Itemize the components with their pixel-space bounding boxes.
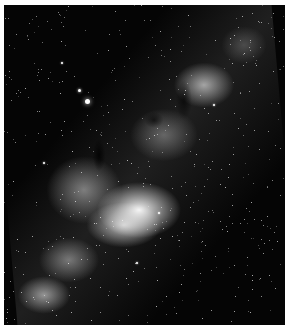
faint-star xyxy=(143,183,144,184)
faint-star xyxy=(90,278,91,279)
faint-star xyxy=(115,80,116,81)
faint-star xyxy=(27,35,28,36)
faint-star xyxy=(208,211,209,212)
faint-star xyxy=(119,320,120,321)
faint-star xyxy=(74,279,75,280)
faint-star xyxy=(48,78,49,79)
faint-star xyxy=(245,274,246,275)
faint-star xyxy=(126,278,127,279)
faint-star xyxy=(190,26,191,27)
faint-star xyxy=(81,172,82,173)
faint-star xyxy=(148,57,149,58)
faint-star xyxy=(117,295,118,296)
faint-star xyxy=(244,232,245,233)
faint-star xyxy=(66,10,67,11)
bright-star xyxy=(136,262,138,264)
faint-star xyxy=(10,281,11,282)
faint-star xyxy=(6,84,7,85)
faint-star xyxy=(189,37,190,38)
faint-star xyxy=(207,140,208,141)
faint-star xyxy=(243,65,244,66)
faint-star xyxy=(272,36,273,37)
faint-star xyxy=(170,99,171,100)
faint-star xyxy=(124,99,125,100)
faint-star xyxy=(155,230,156,231)
faint-star xyxy=(109,291,110,292)
faint-star xyxy=(249,47,250,48)
faint-star xyxy=(88,92,89,93)
faint-star xyxy=(25,135,26,136)
faint-star xyxy=(259,149,260,150)
faint-star xyxy=(14,319,15,320)
faint-star xyxy=(202,228,203,229)
faint-star xyxy=(271,28,272,29)
faint-star xyxy=(100,217,101,218)
faint-star xyxy=(149,166,150,167)
faint-star xyxy=(224,68,225,69)
faint-star xyxy=(186,195,187,196)
faint-star xyxy=(271,281,272,282)
faint-star xyxy=(43,248,44,249)
faint-star xyxy=(162,222,163,223)
faint-star xyxy=(147,322,148,323)
faint-star xyxy=(154,135,155,136)
faint-star xyxy=(101,135,102,136)
faint-star xyxy=(246,208,247,209)
faint-star xyxy=(97,53,98,54)
faint-star xyxy=(235,296,236,297)
faint-star xyxy=(68,263,69,264)
faint-star xyxy=(18,251,19,252)
faint-star xyxy=(128,284,129,285)
faint-star xyxy=(149,138,150,139)
faint-star xyxy=(162,152,163,153)
faint-star xyxy=(233,82,234,83)
faint-star xyxy=(70,216,71,217)
faint-star xyxy=(13,139,14,140)
faint-star xyxy=(165,130,166,131)
faint-star xyxy=(213,212,214,213)
faint-star xyxy=(127,160,128,161)
faint-star xyxy=(97,175,98,176)
faint-star xyxy=(63,238,64,239)
faint-star xyxy=(181,186,182,187)
faint-star xyxy=(163,228,164,229)
faint-star xyxy=(280,195,281,196)
faint-star xyxy=(7,322,8,323)
faint-star xyxy=(161,207,162,208)
faint-star xyxy=(279,41,280,42)
faint-star xyxy=(15,267,16,268)
faint-star xyxy=(62,135,63,136)
faint-star xyxy=(58,12,59,13)
faint-star xyxy=(194,164,195,165)
faint-star xyxy=(280,264,281,265)
faint-star xyxy=(240,223,241,224)
faint-star xyxy=(228,177,229,178)
faint-star xyxy=(103,115,104,116)
faint-star xyxy=(181,284,182,285)
faint-star xyxy=(258,245,259,246)
faint-star xyxy=(61,130,62,131)
faint-star xyxy=(247,265,248,266)
faint-star xyxy=(192,263,193,264)
faint-star xyxy=(5,75,6,76)
faint-star xyxy=(184,94,185,95)
faint-star xyxy=(4,299,5,300)
faint-star xyxy=(142,118,143,119)
faint-star xyxy=(243,54,244,55)
faint-star xyxy=(271,103,272,104)
faint-star xyxy=(126,249,127,250)
faint-star xyxy=(44,295,45,296)
faint-star xyxy=(216,267,217,268)
bright-star xyxy=(61,62,63,64)
faint-star xyxy=(244,219,245,220)
faint-star xyxy=(207,179,208,180)
faint-star xyxy=(132,101,133,102)
faint-star xyxy=(250,312,251,313)
faint-star xyxy=(5,18,6,19)
faint-star xyxy=(39,80,40,81)
faint-star xyxy=(7,312,8,313)
faint-star xyxy=(32,236,33,237)
faint-star xyxy=(61,209,62,210)
faint-star xyxy=(222,229,223,230)
faint-star xyxy=(60,236,61,237)
